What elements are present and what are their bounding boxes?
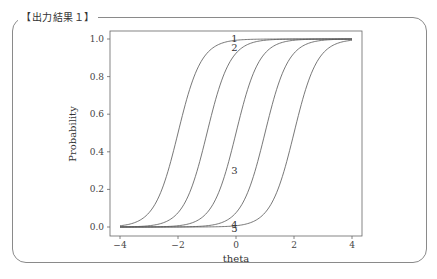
curve-label-5: 5 <box>231 223 237 234</box>
y-axis-ticks: 0.00.20.40.60.81.0 <box>90 34 110 232</box>
y-tick-label: 1.0 <box>90 34 105 44</box>
x-tick-label: 4 <box>349 240 355 250</box>
x-tick-label: 0 <box>233 240 239 250</box>
x-axis-ticks: −4−2024 <box>113 236 355 250</box>
x-tick-label: −2 <box>171 240 184 250</box>
curve-labels: 12345 <box>231 33 237 234</box>
x-tick-label: 2 <box>291 240 297 250</box>
curve-item-3 <box>120 39 352 227</box>
y-axis-label: Probability <box>67 106 78 162</box>
irt-item-characteristic-chart: −4−2024 0.00.20.40.60.81.0 12345 theta P… <box>0 0 437 279</box>
curve-label-3: 3 <box>231 165 237 176</box>
curve-label-2: 2 <box>231 42 237 53</box>
curves <box>120 39 352 227</box>
x-axis-label: theta <box>223 253 249 264</box>
y-tick-label: 0.4 <box>90 147 105 157</box>
y-tick-label: 0.8 <box>90 72 105 82</box>
y-tick-label: 0.0 <box>90 222 105 232</box>
y-tick-label: 0.2 <box>90 184 104 194</box>
y-tick-label: 0.6 <box>90 109 105 119</box>
x-tick-label: −4 <box>113 240 127 250</box>
